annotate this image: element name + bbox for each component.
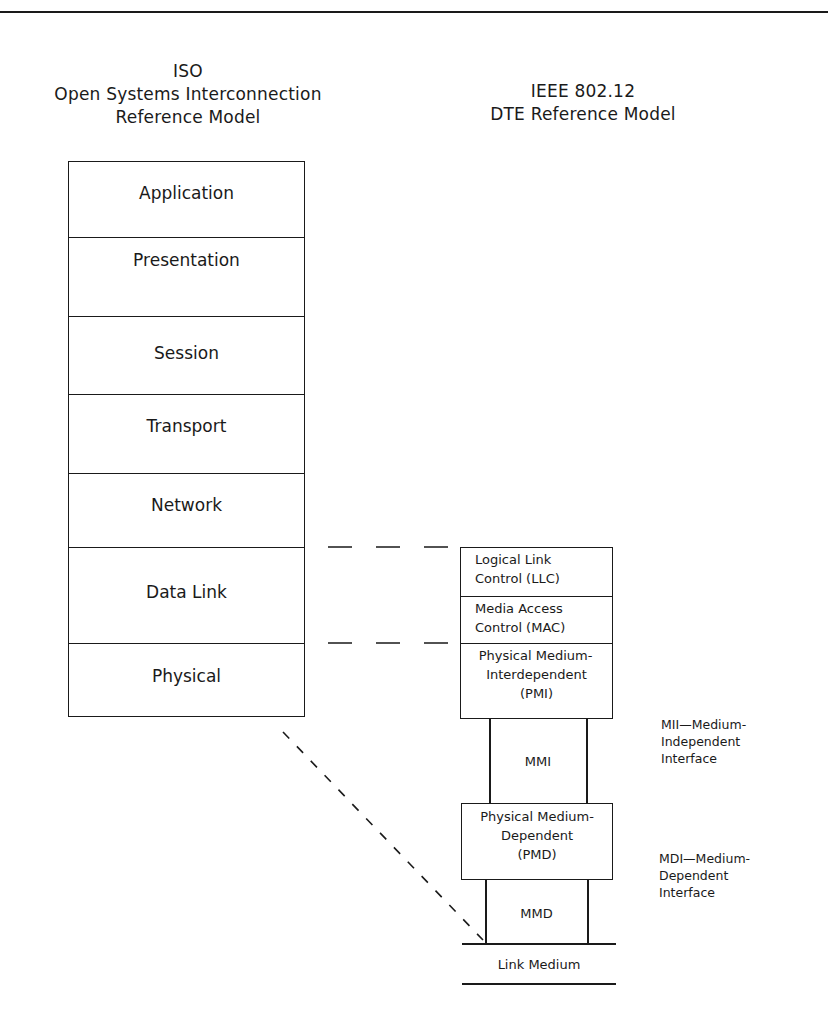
physical-diagonal-dashed-line <box>283 732 483 940</box>
dashed-connectors <box>0 0 828 1035</box>
